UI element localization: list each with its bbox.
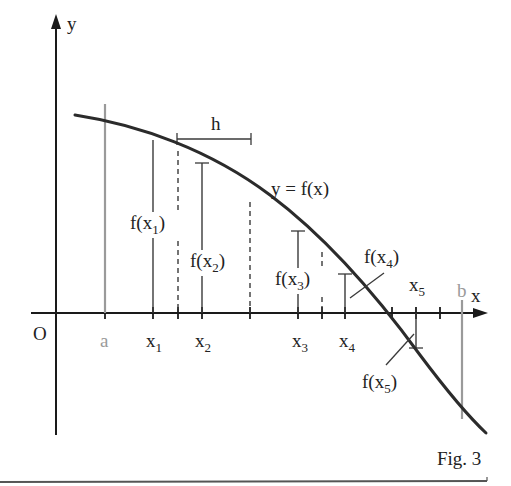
b-label: b bbox=[457, 280, 467, 301]
x2-label: x2 bbox=[195, 330, 211, 355]
step-bracket: h bbox=[177, 113, 251, 145]
y-axis-label: y bbox=[67, 13, 77, 34]
axes bbox=[31, 14, 488, 435]
y-axis-arrow-icon bbox=[51, 14, 61, 29]
curve-label: y = f(x) bbox=[271, 178, 329, 200]
fx4-label: f(x4) bbox=[364, 246, 399, 271]
a-label: a bbox=[100, 330, 109, 351]
leader-fx4 bbox=[350, 273, 384, 298]
x3-label: x3 bbox=[292, 330, 308, 355]
step-label: h bbox=[211, 113, 221, 134]
fx1-label: f(x1) bbox=[128, 212, 180, 238]
x4-label: x4 bbox=[339, 330, 356, 355]
ordinates bbox=[153, 140, 423, 348]
leader-fx5 bbox=[386, 334, 414, 365]
fx3-label: f(x3) bbox=[274, 268, 324, 294]
origin-label: O bbox=[33, 323, 47, 344]
figure-caption: Fig. 3 bbox=[437, 448, 481, 469]
x-axis-arrow-icon bbox=[473, 308, 488, 318]
bottom-rule bbox=[0, 481, 487, 482]
fx2-label: f(x2) bbox=[188, 250, 238, 276]
x5-label: x5 bbox=[409, 274, 425, 299]
numerical-integration-diagram: h y x O y = f(x) a b x1 x2 x3 x4 x5 f(x1… bbox=[0, 0, 511, 486]
fx5-label: f(x5) bbox=[362, 371, 397, 396]
x1-label: x1 bbox=[146, 330, 162, 355]
x-axis-label: x bbox=[471, 285, 481, 306]
